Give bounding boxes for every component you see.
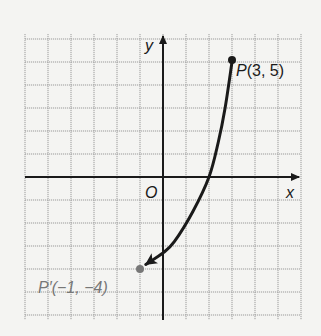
origin-label: O <box>145 184 157 201</box>
y-axis-label: y <box>144 37 154 54</box>
point-p-label: P(3, 5) <box>236 62 284 79</box>
point-p <box>228 56 236 64</box>
x-axis-label: x <box>285 184 295 201</box>
point-p-prime <box>136 265 144 273</box>
point-p-prime-label: P′(−1, −4) <box>38 279 108 296</box>
coordinate-plane: y x O P(3, 5) P′(−1, −4) <box>0 0 321 336</box>
transformation-curve <box>146 62 232 264</box>
